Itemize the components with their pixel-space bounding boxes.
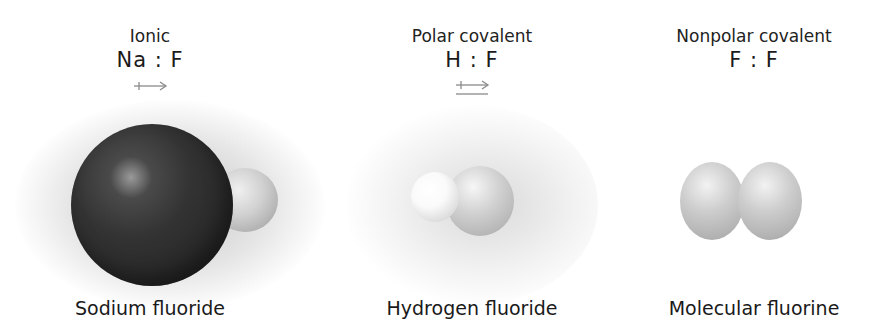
bond-type-label: Polar covalent bbox=[336, 26, 608, 46]
compound-name: Hydrogen fluoride bbox=[336, 297, 608, 319]
fluorine-atom-right bbox=[738, 162, 802, 240]
panel-ionic: Ionic Na : F Sodium fluoride bbox=[0, 0, 300, 336]
sodium-atom bbox=[71, 124, 233, 286]
compound-name: Sodium fluoride bbox=[0, 297, 300, 319]
fluorine-atom-left bbox=[680, 162, 744, 240]
hydrogen-atom bbox=[411, 172, 459, 222]
double-headed-arrow-underlined-icon bbox=[336, 78, 608, 98]
panel-nonpolar-covalent: Nonpolar covalent F : F Molecular fluori… bbox=[618, 0, 890, 336]
compound-name: Molecular fluorine bbox=[618, 297, 890, 319]
panel-polar-covalent: Polar covalent H : F Hydrogen fluoride bbox=[336, 0, 608, 336]
bond-type-label: Ionic bbox=[0, 26, 300, 46]
bond-type-label: Nonpolar covalent bbox=[618, 26, 890, 46]
double-headed-arrow-icon bbox=[0, 78, 300, 98]
lewis-formula: F : F bbox=[618, 48, 890, 72]
lewis-formula: H : F bbox=[336, 48, 608, 72]
lewis-formula: Na : F bbox=[0, 48, 300, 72]
